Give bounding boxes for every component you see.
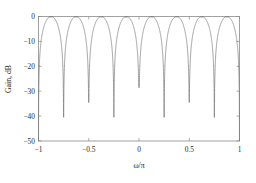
gain-curve xyxy=(39,17,240,141)
plot-frame xyxy=(39,17,240,142)
y-tick-label: −40 xyxy=(23,112,35,121)
y-tick-label: −10 xyxy=(23,37,35,46)
y-axis-tick-labels: 0−10−20−30−40−50 xyxy=(23,12,35,146)
y-tick-label: −20 xyxy=(23,62,35,71)
gain-frequency-response-chart: −1−0.500.51 0−10−20−30−40−50 ω/π Gain, d… xyxy=(0,0,256,183)
x-axis-ticks xyxy=(39,17,240,142)
x-axis-tick-labels: −1−0.500.51 xyxy=(35,145,242,154)
y-tick-label: 0 xyxy=(31,12,35,21)
y-axis-ticks xyxy=(39,17,240,142)
x-tick-label: 1 xyxy=(238,145,242,154)
y-tick-label: −30 xyxy=(23,87,35,96)
x-axis-label: ω/π xyxy=(133,161,144,170)
x-tick-label: 0.5 xyxy=(185,145,195,154)
x-tick-label: −1 xyxy=(35,145,43,154)
y-tick-label: −50 xyxy=(23,137,35,146)
figure-canvas: −1−0.500.51 0−10−20−30−40−50 ω/π Gain, d… xyxy=(0,0,256,183)
y-axis-label: Gain, dB xyxy=(4,65,13,93)
x-tick-label: −0.5 xyxy=(82,145,96,154)
x-tick-label: 0 xyxy=(137,145,141,154)
